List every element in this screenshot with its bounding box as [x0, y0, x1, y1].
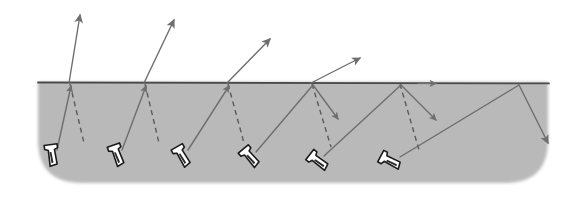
specimen-fill	[38, 82, 548, 183]
figure-canvas	[0, 0, 585, 200]
ultrasonic-refraction-figure	[0, 0, 585, 200]
refracted-escape-ray-2	[144, 20, 174, 83]
specimen-block	[38, 82, 549, 183]
refracted-escape-ray-1	[69, 15, 80, 83]
refracted-escape-ray-4	[311, 58, 360, 83]
refracted-escape-ray-3	[227, 39, 270, 83]
specimen-top-surface-line	[38, 83, 549, 84]
